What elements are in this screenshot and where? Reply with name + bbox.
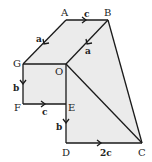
vector-BO-label: a <box>85 46 91 56</box>
vector-FE-label: c <box>42 107 47 117</box>
diagram-svg <box>0 0 152 162</box>
vector-AG-label: a <box>36 34 42 44</box>
vertex-G-label: G <box>13 59 21 69</box>
vector-GF-label: b <box>13 83 19 93</box>
vertex-B-label: B <box>104 8 111 18</box>
vertex-O-label: O <box>55 67 63 77</box>
vertex-A-label: A <box>61 8 68 18</box>
vector-DC-label: 2c <box>100 148 112 158</box>
vertex-F-label: F <box>14 103 21 113</box>
vector-ED-label: b <box>56 122 62 132</box>
vertex-E-label: E <box>68 103 75 113</box>
vector-AB-label: c <box>84 9 89 19</box>
vertex-C-label: C <box>138 148 146 158</box>
vertex-D-label: D <box>62 148 70 158</box>
vector-diagram: A B G O F E D C c a a b c b 2c <box>0 0 152 162</box>
